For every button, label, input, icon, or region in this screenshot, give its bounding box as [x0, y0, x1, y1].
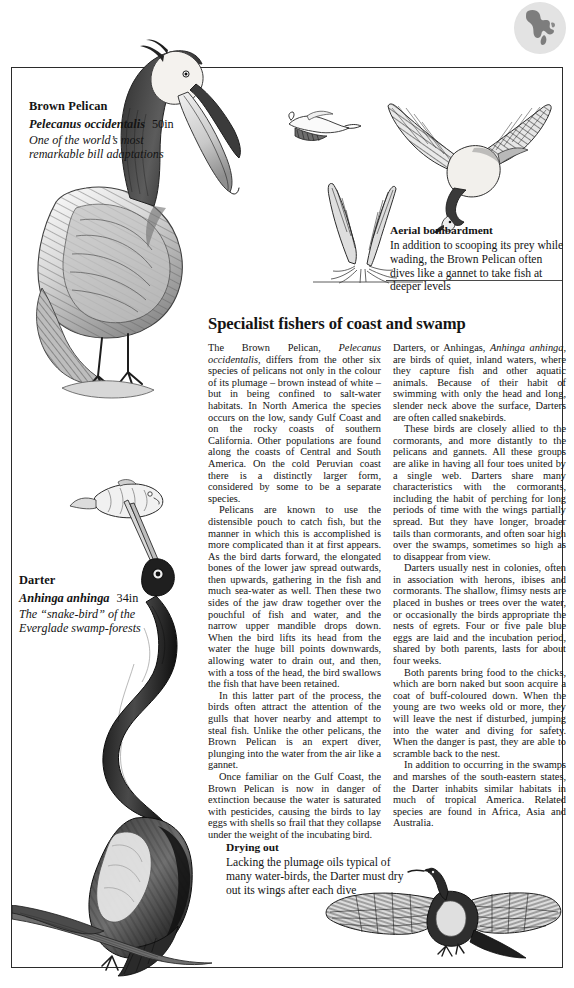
aerial-bombardment-caption: Aerial bombardment In addition to scoopi…: [390, 224, 566, 294]
darter-size: 34in: [110, 591, 139, 605]
caption-rule: [386, 280, 562, 281]
article-paragraph: Darters usually nest in colonies, often …: [393, 562, 566, 666]
article-left-column: The Brown Pelican, Pelecanus occidentali…: [208, 342, 381, 841]
perch-branch-illustration: [12, 905, 222, 967]
article-paragraph: Both parents bring food to the chicks, w…: [393, 667, 566, 760]
magazine-page: Brown Pelican Pelecanus occidentalis50in…: [0, 0, 574, 988]
drying-caption-title: Drying out: [226, 841, 406, 855]
darter-label: Darter Anhinga anhinga34in The “snake-bi…: [19, 573, 141, 636]
article: Specialist fishers of coast and swamp Th…: [208, 314, 566, 841]
darter-common-name: Darter: [19, 573, 141, 588]
article-title: Specialist fishers of coast and swamp: [208, 314, 566, 334]
article-paragraph: Pelicans are known to use the distensibl…: [208, 504, 381, 690]
article-right-column: Darters, or Anhingas, Anhinga anhinga, a…: [393, 342, 566, 841]
darter-tagline-line1: The “snake-bird” of the: [19, 607, 141, 622]
darter-tagline-line2: Everglade swamp-forests: [19, 621, 141, 636]
pelican-size: 50in: [145, 117, 174, 131]
article-paragraph: In this latter part of the process, the …: [208, 690, 381, 771]
article-paragraph: In addition to occurring in the swamps a…: [393, 759, 566, 829]
darter-with-speared-fish-illustration: [40, 478, 215, 978]
north-america-map-globe-icon: [514, 2, 566, 54]
article-paragraph: These birds are closely allied to the co…: [393, 423, 566, 562]
aerial-caption-body: In addition to scooping its prey while w…: [390, 239, 566, 295]
pelican-scientific-name: Pelecanus occidentalis: [29, 117, 145, 131]
drying-caption-body: Lacking the plumage oils typical of many…: [226, 856, 406, 898]
pelican-common-name: Brown Pelican: [29, 99, 174, 114]
pelican-flying-illustration: [283, 106, 363, 152]
darter-scientific-name: Anhinga anhinga: [19, 591, 110, 605]
article-paragraph: Once familiar on the Gulf Coast, the Bro…: [208, 771, 381, 841]
article-paragraph: Darters, or Anhingas, Anhinga anhinga, a…: [393, 342, 566, 423]
pelican-tagline-line2: remarkable bill adaptations: [29, 147, 174, 162]
article-columns: The Brown Pelican, Pelecanus occidentali…: [208, 342, 566, 841]
pelican-tagline-line1: One of the world’s most: [29, 133, 174, 148]
article-paragraph: The Brown Pelican, Pelecanus occidentali…: [208, 342, 381, 504]
aerial-caption-title: Aerial bombardment: [390, 224, 566, 238]
brown-pelican-label: Brown Pelican Pelecanus occidentalis50in…: [29, 99, 174, 162]
drying-out-caption: Drying out Lacking the plumage oils typi…: [226, 841, 406, 897]
